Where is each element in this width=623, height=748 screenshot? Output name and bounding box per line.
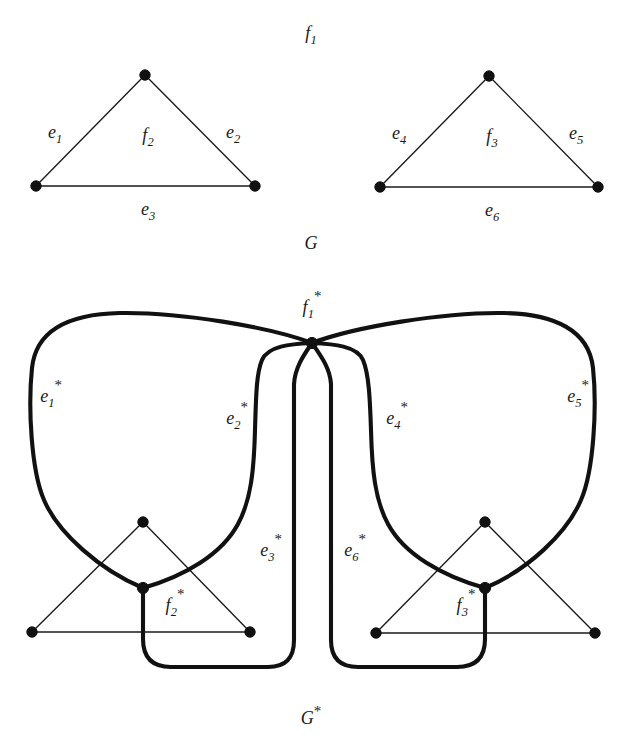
- dual-vertex-f2-star: [137, 582, 148, 593]
- top-right-vertex-apex: [484, 71, 494, 81]
- top-right-edge-e5: [489, 76, 598, 187]
- label-e3: e3: [141, 199, 155, 223]
- top-graph-G: f1 e1 f2 e2 e3 e4 f3: [31, 23, 603, 253]
- top-right-vertex-bottom-right: [593, 182, 603, 192]
- caption-G-star: G*: [301, 703, 322, 728]
- dual-base-right-edge-e4: [376, 522, 485, 633]
- label-f2-face: f2: [142, 125, 153, 149]
- dual-base-left-edge-e1: [32, 522, 143, 632]
- top-left-vertex-bottom-left: [31, 181, 41, 191]
- dual-base-right-vertex-bottom-left: [371, 628, 381, 638]
- label-f1-outer-face: f1: [305, 23, 316, 47]
- label-e1-star: e1*: [40, 377, 62, 410]
- dual-base-right-vertex-apex: [480, 517, 490, 527]
- dual-edge-e6-star: [312, 343, 485, 667]
- top-left-vertex-apex: [140, 70, 150, 80]
- dual-edge-e1-star: [30, 313, 312, 588]
- figure-svg: f1 e1 f2 e2 e3 e4 f3: [0, 0, 623, 748]
- label-e3-star: e3*: [260, 531, 282, 564]
- label-e2-star: e2*: [226, 399, 248, 432]
- dual-vertex-f1-star: [306, 337, 317, 348]
- dual-edge-e3-star: [143, 343, 312, 667]
- dual-base-left-vertex-apex: [138, 517, 148, 527]
- figure-container: f1 e1 f2 e2 e3 e4 f3: [0, 0, 623, 748]
- label-e2: e2: [226, 122, 240, 146]
- label-f1-star: f1*: [303, 288, 322, 321]
- caption-G: G: [305, 233, 318, 253]
- top-left-vertex-bottom-right: [250, 181, 260, 191]
- label-f3-star: f3*: [457, 586, 476, 619]
- dual-base-left-vertex-bottom-right: [245, 627, 255, 637]
- dual-base-right-vertex-bottom-right: [590, 628, 600, 638]
- label-e6: e6: [485, 200, 500, 224]
- label-e1: e1: [48, 122, 62, 146]
- label-e4-star: e4*: [386, 399, 408, 432]
- label-e4: e4: [392, 123, 406, 147]
- dual-base-left-vertex-bottom-left: [27, 627, 37, 637]
- label-f3-face: f3: [486, 126, 497, 150]
- dual-edge-e2-star: [143, 343, 312, 588]
- label-e5-star: e5*: [567, 377, 589, 410]
- dual-base-left-edge-e2: [143, 522, 250, 632]
- dual-edge-e4-star: [312, 343, 485, 588]
- dual-graph-G-star: f1* e1* e2* e3* e4* e5* e6* f2*: [27, 288, 600, 728]
- dual-vertex-f3-star: [479, 582, 490, 593]
- dual-base-right-edge-e5: [485, 522, 595, 633]
- top-left-edge-e2: [145, 75, 255, 186]
- label-e6-star: e6*: [344, 531, 366, 564]
- dual-edge-e5-star: [312, 313, 595, 588]
- top-right-vertex-bottom-left: [375, 182, 385, 192]
- label-f2-star: f2*: [166, 586, 185, 619]
- label-e5: e5: [569, 123, 583, 147]
